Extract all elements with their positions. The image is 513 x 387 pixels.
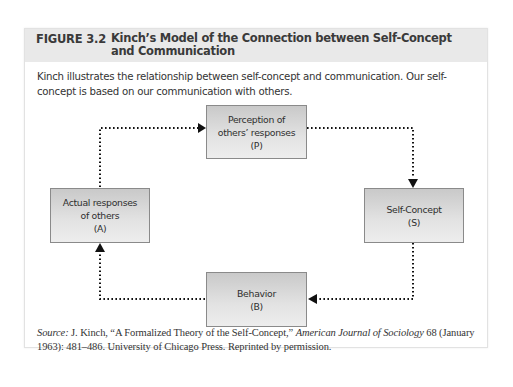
node-s-line-1: Self-Concept <box>386 203 441 216</box>
arrowhead-up-icon <box>95 243 105 252</box>
node-perception: Perception of others’ responses (P) <box>206 105 307 159</box>
edge-b-to-a <box>100 252 205 299</box>
node-behavior: Behavior (B) <box>206 272 307 327</box>
node-a-line-3: (A) <box>94 222 107 235</box>
edge-p-to-s <box>307 128 413 178</box>
node-b-line-2: (B) <box>250 300 263 313</box>
node-self-concept: Self-Concept (S) <box>364 188 464 243</box>
arrowhead-down-icon <box>408 179 418 188</box>
edge-a-to-p <box>100 128 198 187</box>
edge-s-to-b <box>318 243 413 299</box>
arrowhead-left-icon <box>308 294 317 304</box>
node-p-line-1: Perception of <box>228 113 285 126</box>
node-a-line-2: of others <box>81 209 120 222</box>
node-s-line-2: (S) <box>408 216 420 229</box>
node-actual-responses: Actual responses of others (A) <box>50 188 150 243</box>
node-b-line-1: Behavior <box>237 287 276 300</box>
arrowhead-right-icon <box>198 123 206 133</box>
node-p-line-2: others’ responses <box>218 126 296 139</box>
node-a-line-1: Actual responses <box>63 196 137 209</box>
node-p-line-3: (P) <box>251 139 263 152</box>
